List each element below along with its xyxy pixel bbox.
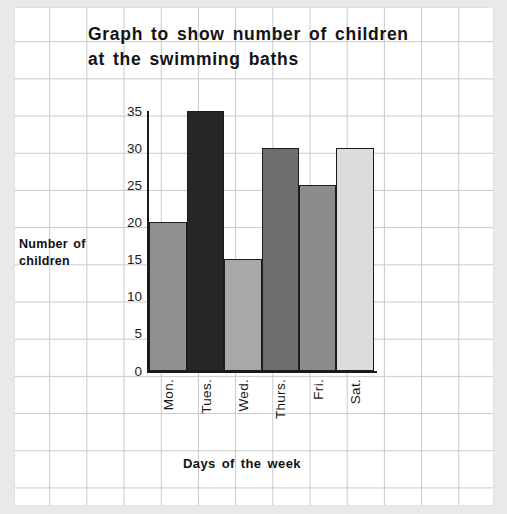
x-tick-fri: Fri. xyxy=(311,379,326,400)
x-axis-line xyxy=(147,371,377,373)
chart-title: Graph to show number of children at the … xyxy=(88,22,478,72)
plot-area: 05101520253035 Mon.Tues.Wed.Thurs.Fri.Sa… xyxy=(147,103,379,380)
chart-title-line-1: Graph to show number of children xyxy=(88,22,478,47)
x-tick-wed: Wed. xyxy=(236,379,251,411)
bar-series xyxy=(149,103,379,371)
x-tick-sat: Sat. xyxy=(348,379,363,404)
bar-tues xyxy=(187,111,224,371)
y-tick-35: 35 xyxy=(127,103,142,118)
bar-thurs xyxy=(262,148,299,371)
y-tick-30: 30 xyxy=(127,140,142,155)
bar-fri xyxy=(299,185,336,371)
y-tick-20: 20 xyxy=(127,214,142,229)
y-axis-label-line-1: Number of xyxy=(19,236,129,253)
bar-sat xyxy=(336,148,373,371)
chart-title-line-2: at the swimming baths xyxy=(88,47,478,72)
y-tick-5: 5 xyxy=(134,326,142,341)
x-tick-thurs: Thurs. xyxy=(273,379,288,419)
x-tick-mon: Mon. xyxy=(161,379,176,410)
y-tick-25: 25 xyxy=(127,177,142,192)
y-tick-10: 10 xyxy=(127,289,142,304)
graph-paper-page: Graph to show number of children at the … xyxy=(15,8,493,505)
y-tick-15: 15 xyxy=(127,252,142,267)
bar-wed xyxy=(224,259,261,370)
x-axis-label: Days of the week xyxy=(183,456,301,471)
y-tick-0: 0 xyxy=(134,363,142,378)
y-axis-label: Number of children xyxy=(19,236,129,270)
x-tick-tues: Tues. xyxy=(199,379,214,414)
bar-mon xyxy=(149,222,186,371)
y-axis-label-line-2: children xyxy=(19,253,129,270)
